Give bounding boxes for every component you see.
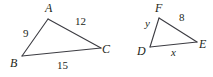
side-label-ac: 12 (75, 16, 86, 27)
side-label-de: x (171, 47, 176, 58)
segment-fe (159, 18, 197, 42)
geometry-figure: A B C 9 12 15 F D E y 8 x (0, 0, 213, 77)
triangle-abc-shape (22, 19, 101, 56)
side-label-bc: 15 (57, 60, 68, 71)
side-label-fe: 8 (179, 12, 185, 23)
triangle-def-shape (150, 18, 197, 47)
vertex-label-a: A (45, 2, 52, 14)
vertex-label-c: C (102, 43, 110, 55)
vertex-label-d: D (137, 45, 146, 57)
side-label-ab: 9 (23, 28, 29, 39)
vertex-label-f: F (155, 2, 162, 14)
vertex-label-e: E (199, 38, 206, 50)
side-label-df: y (145, 18, 150, 29)
vertex-label-b: B (10, 57, 17, 69)
segment-fd (150, 18, 159, 47)
segment-bc (22, 48, 101, 56)
